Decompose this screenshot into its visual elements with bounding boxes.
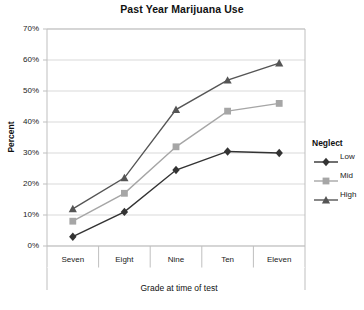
x-axis-tick-label: Eight	[99, 255, 151, 264]
y-axis-tick-label: 70%	[11, 24, 39, 33]
legend-label: Low	[340, 152, 355, 161]
data-point-marker	[224, 108, 231, 115]
x-axis-tick-label: Eleven	[253, 255, 305, 264]
chart-title: Past Year Marijuana Use	[0, 3, 364, 15]
y-axis-tick-label: 60%	[11, 55, 39, 64]
legend-marker-icon	[314, 157, 338, 167]
y-axis-tick-label: 10%	[11, 210, 39, 219]
legend-label: Mid	[340, 171, 353, 180]
data-point-marker	[69, 205, 77, 212]
data-point-marker	[69, 233, 76, 241]
legend-marker-icon	[314, 176, 338, 186]
y-axis-tick-label: 0%	[11, 241, 39, 250]
x-axis-tick-label: Seven	[47, 255, 99, 264]
y-axis-tick-label: 50%	[11, 86, 39, 95]
legend-title: Neglect	[312, 138, 343, 148]
data-point-marker	[69, 218, 76, 225]
y-axis-title: Percent	[6, 102, 16, 172]
data-point-marker	[276, 100, 283, 107]
x-axis-title: Grade at time of test	[48, 283, 310, 293]
y-axis-tick-label: 30%	[11, 148, 39, 157]
x-axis-tick-label: Nine	[150, 255, 202, 264]
y-axis-tick-label: 20%	[11, 179, 39, 188]
series-line-low	[73, 151, 279, 236]
series-line-high	[73, 63, 279, 209]
data-point-marker	[121, 190, 128, 197]
y-axis-tick-label: 40%	[11, 117, 39, 126]
data-point-marker	[224, 147, 231, 155]
data-point-marker	[173, 143, 180, 150]
legend-label: High	[340, 190, 356, 199]
chart-container: Past Year Marijuana Use Percent Grade at…	[0, 0, 364, 310]
data-point-marker	[276, 149, 283, 157]
legend-marker-icon	[314, 195, 338, 205]
data-point-marker	[323, 178, 330, 185]
data-point-marker	[322, 158, 329, 166]
series-line-mid	[73, 103, 279, 221]
data-point-marker	[172, 106, 180, 113]
x-axis-tick-label: Ten	[202, 255, 254, 264]
